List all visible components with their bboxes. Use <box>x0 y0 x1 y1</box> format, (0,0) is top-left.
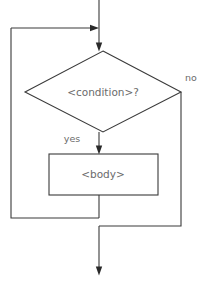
edge-label-yes: yes <box>64 133 80 144</box>
edge-entry-into-condition <box>96 0 102 52</box>
flowchart-diagram: <condition>? no yes <body> <box>0 0 206 285</box>
yes-branch-arrowhead-icon <box>96 146 102 155</box>
loopback-arrowhead-icon <box>90 25 99 31</box>
edge-label-no: no <box>185 72 197 83</box>
node-condition: <condition>? <box>25 51 181 132</box>
entry-arrowhead-icon <box>96 43 102 52</box>
edge-exit-arrow <box>96 226 102 276</box>
condition-label: <condition>? <box>67 86 139 98</box>
body-label: <body> <box>81 168 125 180</box>
edge-condition-yes-to-body <box>96 132 102 155</box>
exit-arrowhead-icon <box>96 267 102 276</box>
node-body: <body> <box>49 154 158 195</box>
flowchart-canvas: <condition>? no yes <body> <box>0 0 206 285</box>
